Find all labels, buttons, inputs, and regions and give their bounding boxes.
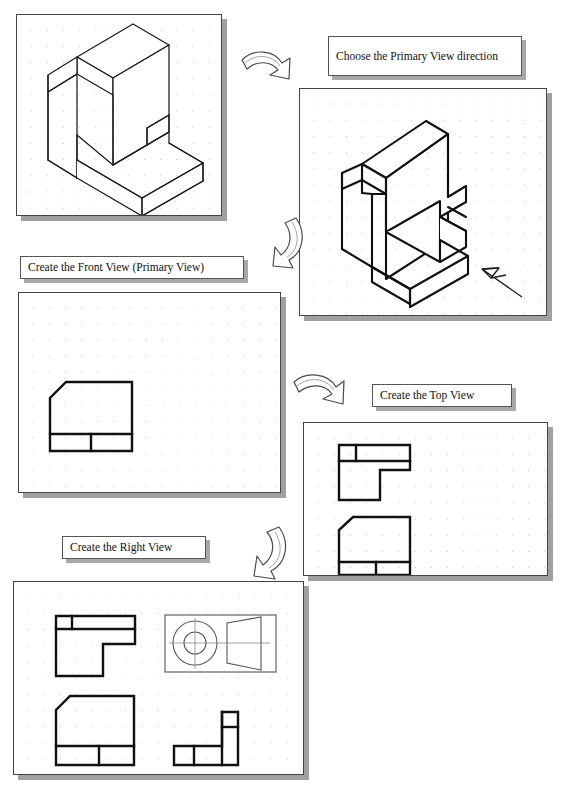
arrow-1-curved-right-down [236,44,298,96]
top-view-outline [56,616,135,676]
arrow-2-curved-down-left [256,212,310,274]
panel-top-view [303,422,548,576]
panel-sheet [303,422,548,576]
panel-all-views [13,581,304,775]
arrow-3-curved-right-down [288,368,354,420]
all-views-drawing [14,582,304,775]
right-view-outline [174,712,238,765]
front-view-outline [56,696,134,765]
caption-text: Create the Right View [63,538,179,557]
isometric-drawing-1 [17,15,222,216]
panel-sheet [18,292,281,493]
caption-text: Create the Front View (Primary View) [21,258,211,277]
panel-sheet [13,581,304,775]
caption-box: Create the Front View (Primary View) [20,256,244,279]
caption-text: Create the Top View [373,386,481,405]
panel-sheet [16,14,222,216]
drawing-page: Choose the Primary View direction [0,0,577,804]
caption-text: Choose the Primary View direction [329,47,505,66]
caption-box: Choose the Primary View direction [328,36,522,76]
front-view-outline [339,517,410,575]
caption-create-right-view: Create the Right View [62,536,206,559]
top-view-outline [339,445,410,500]
detail-orthographic-sample [165,615,276,672]
caption-choose-primary-view: Choose the Primary View direction [328,36,522,76]
caption-box: Create the Top View [372,384,512,407]
caption-box: Create the Right View [62,536,206,559]
top-and-front-view-drawing [304,423,548,576]
view-direction-arrow [482,268,522,297]
arrow-4-curved-down-left [237,521,293,581]
caption-create-front-view: Create the Front View (Primary View) [20,256,244,279]
panel-front-view [18,292,281,493]
panel-isometric-1 [16,14,222,216]
front-view-drawing [19,293,281,493]
isometric-drawing-2 [300,89,547,316]
panel-isometric-2 [299,88,547,316]
panel-sheet [299,88,547,316]
caption-create-top-view: Create the Top View [372,384,512,407]
